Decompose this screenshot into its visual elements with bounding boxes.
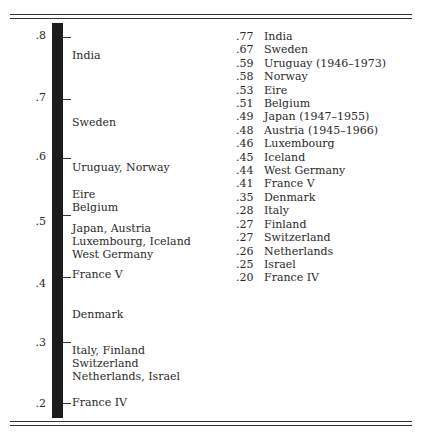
table-row: .51Belgium [236,97,386,110]
scale-bar [52,23,63,418]
bottom-rule-2 [10,425,412,426]
table-country: Japan (1947–1955) [264,110,369,123]
scale-label: Luxembourg, Iceland [72,235,191,248]
table-value: .49 [236,110,264,123]
table-value: .51 [236,97,264,110]
table-row: .44West Germany [236,164,386,177]
axis-tick-label: .6 [26,150,46,163]
table-row: .26Netherlands [236,245,386,258]
table-country: Switzerland [264,231,331,244]
scale-label: West Germany [72,248,153,261]
table-value: .25 [236,258,264,271]
scale-label: Uruguay, Norway [72,161,170,174]
axis-tick [63,277,71,278]
table-country: Israel [264,258,296,271]
scale-label: Sweden [72,116,116,129]
table-country: West Germany [264,164,345,177]
table-row: .48Austria (1945–1966) [236,124,386,137]
axis-tick [63,99,71,100]
table-row: .67Sweden [236,43,386,56]
table-row: .46Luxembourg [236,137,386,150]
table-country: Sweden [264,43,308,56]
table-row: .49Japan (1947–1955) [236,110,386,123]
table-value: .46 [236,137,264,150]
axis-tick [63,215,71,216]
axis-tick-label: .7 [26,91,46,104]
table-country: Finland [264,218,306,231]
table-country: Uruguay (1946–1973) [264,57,386,70]
table-value: .27 [236,231,264,244]
top-rule-2 [10,18,412,19]
scale-label: India [72,49,101,62]
axis-tick-label: .2 [26,397,46,410]
scale-label: Denmark [72,308,123,321]
scale-label: France IV [72,396,127,409]
table-row: .45Iceland [236,151,386,164]
table-country: Norway [264,70,308,83]
table-row: .25Israel [236,258,386,271]
table-value: .48 [236,124,264,137]
table-country: France V [264,177,315,190]
axis-tick [63,158,71,159]
table-country: Eire [264,84,287,97]
table-value: .28 [236,204,264,217]
table-country: India [264,30,293,43]
axis-tick [63,403,71,404]
axis-tick-label: .4 [26,277,46,290]
scale-label: Japan, Austria [72,222,151,235]
table-value: .53 [236,84,264,97]
table-value: .26 [236,245,264,258]
table-value: .45 [236,151,264,164]
table-country: Denmark [264,191,315,204]
table-value: .44 [236,164,264,177]
scale-label: Switzerland [72,357,139,370]
table-value: .27 [236,218,264,231]
table-row: .27Finland [236,218,386,231]
table-value: .41 [236,177,264,190]
table-value: .20 [236,271,264,284]
table-value: .59 [236,57,264,70]
values-table: .77India .67Sweden .59Uruguay (1946–1973… [236,30,386,285]
axis-tick [63,342,71,343]
table-row: .59Uruguay (1946–1973) [236,57,386,70]
axis-tick-label: .5 [26,215,46,228]
scale-label: Italy, Finland [72,344,145,357]
table-country: Austria (1945–1966) [264,124,378,137]
scale-label: Netherlands, Israel [72,370,180,383]
top-rule-1 [10,14,412,15]
table-row: .28Italy [236,204,386,217]
table-country: Italy [264,204,289,217]
table-row: .58Norway [236,70,386,83]
axis-tick-label: .3 [26,336,46,349]
table-row: .27Switzerland [236,231,386,244]
table-country: Netherlands [264,245,333,258]
table-row: .41France V [236,177,386,190]
axis-tick [63,37,71,38]
table-row: .77India [236,30,386,43]
scale-label: Eire [72,188,95,201]
table-value: .58 [236,70,264,83]
table-row: .53Eire [236,84,386,97]
table-country: France IV [264,271,319,284]
scale-label: Belgium [72,201,118,214]
axis-tick-label: .8 [26,29,46,42]
table-value: .67 [236,43,264,56]
table-row: .35Denmark [236,191,386,204]
table-row: .20France IV [236,271,386,284]
table-value: .35 [236,191,264,204]
table-country: Iceland [264,151,305,164]
table-country: Belgium [264,97,310,110]
scale-label: France V [72,268,123,281]
table-value: .77 [236,30,264,43]
table-country: Luxembourg [264,137,335,150]
bottom-rule-1 [10,421,412,422]
